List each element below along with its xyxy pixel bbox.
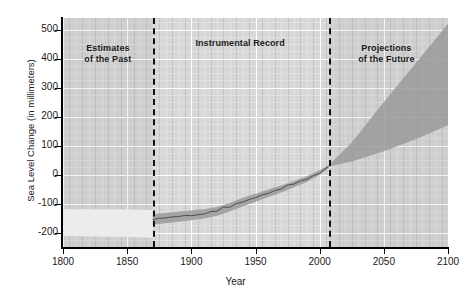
plot-area: Estimates of the Past Instrumental Recor…: [63, 18, 448, 247]
x-tick-1950: [256, 249, 257, 254]
x-tick-label-1950: 1950: [231, 256, 281, 267]
annotation-instrumental-record: Instrumental Record: [185, 38, 295, 49]
x-tick-2000: [320, 249, 321, 254]
x-tick-2050: [384, 249, 385, 254]
series-estimates-of-the-past-uncertainty-band: [63, 209, 153, 237]
past-instrumental-divider: [153, 18, 155, 247]
annotation-projections-of-the-future: Projections of the Future: [341, 43, 431, 65]
y-tick-label-400: 400: [41, 52, 58, 63]
y-tick-label--100: -100: [38, 197, 58, 208]
x-tick-1900: [191, 249, 192, 254]
x-tick-1800: [63, 249, 64, 254]
y-tick-label-0: 0: [52, 168, 58, 179]
y-axis-title: Sea Level Change (in millimeters): [25, 31, 36, 231]
annotation-estimates-of-the-past: Estimates of the Past: [66, 43, 150, 65]
x-axis-title: Year: [0, 276, 471, 287]
x-tick-label-2100: 2100: [423, 256, 471, 267]
y-tick-label-500: 500: [41, 23, 58, 34]
y-tick-label--200: -200: [38, 226, 58, 237]
y-tick-label-100: 100: [41, 139, 58, 150]
instrumental-projection-divider: [329, 18, 331, 247]
x-tick-label-1800: 1800: [38, 256, 88, 267]
series-instrumental-record-uncertainty-band: [153, 165, 329, 224]
x-tick-label-1850: 1850: [102, 256, 152, 267]
sea-level-change-chart: Estimates of the Past Instrumental Recor…: [0, 0, 471, 298]
x-tick-1850: [127, 249, 128, 254]
x-tick-2100: [448, 249, 449, 254]
x-tick-label-1900: 1900: [166, 256, 216, 267]
y-tick-label-300: 300: [41, 81, 58, 92]
x-tick-label-2000: 2000: [295, 256, 345, 267]
x-tick-label-2050: 2050: [359, 256, 409, 267]
y-tick-label-200: 200: [41, 110, 58, 121]
y-axis-line: [61, 17, 63, 248]
